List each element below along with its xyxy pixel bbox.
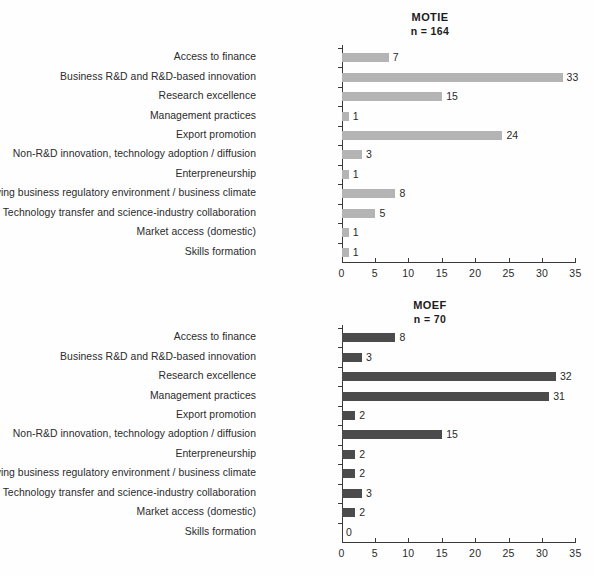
chart-row: Export promotion24	[0, 126, 594, 145]
y-axis-tick	[338, 406, 342, 407]
x-axis-tick-label: 30	[529, 267, 555, 279]
category-label: Research excellence	[159, 370, 256, 382]
y-axis-tick	[338, 87, 342, 88]
x-axis-tick	[542, 538, 543, 542]
category-label: Business R&D and R&D-based innovation	[60, 71, 256, 83]
bar-value-label: 8	[399, 188, 405, 198]
y-axis-tick	[338, 106, 342, 107]
category-label: Access to finance	[174, 331, 256, 343]
chart-row: Improving business regulatory environmen…	[0, 464, 594, 483]
chart-panel-motie: MOTIE n = 164 Access to finance7Business…	[0, 0, 594, 290]
y-axis-tick	[338, 126, 342, 127]
chart-row: Improving business regulatory environmen…	[0, 184, 594, 203]
y-axis-tick	[338, 386, 342, 387]
category-label: Improving business regulatory environmen…	[0, 467, 256, 479]
x-axis-tick	[408, 258, 409, 262]
x-axis-tick	[575, 258, 576, 262]
y-axis-tick	[338, 48, 342, 49]
bar-value-label: 32	[560, 371, 572, 381]
bar	[342, 353, 362, 362]
bar	[342, 92, 442, 101]
y-axis-tick	[338, 67, 342, 68]
category-label: Improving business regulatory environmen…	[0, 187, 256, 199]
x-axis-tick-label: 35	[562, 267, 588, 279]
bar-value-label: 8	[399, 332, 405, 342]
category-label: Technology transfer and science-industry…	[3, 487, 256, 499]
y-axis-tick	[338, 484, 342, 485]
chart-row: Access to finance8	[0, 328, 594, 347]
category-label: Enterpreneurship	[175, 168, 256, 180]
x-axis-tick-label: 10	[395, 547, 421, 559]
bar-value-label: 1	[353, 111, 359, 121]
x-axis-tick-label: 10	[395, 267, 421, 279]
x-axis-tick-label: 15	[429, 267, 455, 279]
bar-value-label: 3	[366, 352, 372, 362]
x-axis-tick	[375, 538, 376, 542]
category-label: Export promotion	[176, 129, 256, 141]
category-label: Management practices	[150, 110, 256, 122]
category-label: Technology transfer and science-industry…	[3, 207, 256, 219]
chart-row: Technology transfer and science-industry…	[0, 484, 594, 503]
category-label: Skills formation	[185, 246, 256, 258]
bar	[342, 392, 549, 401]
y-axis-tick	[338, 367, 342, 368]
chart-row: Skills formation1	[0, 243, 594, 262]
y-axis-tick	[338, 165, 342, 166]
chart-row: Business R&D and R&D-based innovation3	[0, 347, 594, 366]
category-label: Enterpreneurship	[175, 448, 256, 460]
y-axis-tick	[338, 347, 342, 348]
bar	[342, 150, 362, 159]
bar	[342, 469, 355, 478]
bar-value-label: 2	[359, 507, 365, 517]
x-axis-tick	[342, 538, 343, 542]
category-label: Management practices	[150, 390, 256, 402]
bar	[342, 508, 355, 517]
chart-row: Non-R&D innovation, technology adoption …	[0, 425, 594, 444]
bar-value-label: 2	[359, 449, 365, 459]
category-label: Export promotion	[176, 409, 256, 421]
y-axis-tick	[338, 464, 342, 465]
bar	[342, 170, 349, 179]
bar-value-label: 31	[553, 391, 565, 401]
bar-value-label: 1	[353, 247, 359, 257]
x-axis-tick	[375, 258, 376, 262]
bar	[342, 430, 442, 439]
bar	[342, 53, 389, 62]
x-axis-tick-label: 25	[496, 267, 522, 279]
bar-value-label: 15	[446, 429, 458, 439]
bar-value-label: 3	[366, 149, 372, 159]
bar-value-label: 1	[353, 227, 359, 237]
x-axis-tick-label: 15	[429, 547, 455, 559]
x-axis-tick	[408, 538, 409, 542]
y-axis-tick	[338, 445, 342, 446]
x-axis-tick	[342, 258, 343, 262]
bar-value-label: 0	[346, 527, 352, 537]
plot-area-motie: Access to finance7Business R&D and R&D-b…	[0, 0, 594, 290]
y-axis-tick	[338, 184, 342, 185]
x-axis-tick	[509, 258, 510, 262]
x-axis-tick-label: 35	[562, 547, 588, 559]
bar-value-label: 5	[379, 208, 385, 218]
x-axis-tick-label: 0	[329, 267, 355, 279]
chart-row: Enterpreneurship2	[0, 445, 594, 464]
y-axis-tick	[338, 523, 342, 524]
bar	[342, 112, 349, 121]
x-axis-tick-label: 5	[362, 547, 388, 559]
x-axis-tick-label: 25	[496, 547, 522, 559]
bar-value-label: 3	[366, 488, 372, 498]
bar-value-label: 15	[446, 91, 458, 101]
figure-root: MOTIE n = 164 Access to finance7Business…	[0, 0, 594, 576]
chart-row: Skills formation0	[0, 523, 594, 542]
bar	[342, 131, 502, 140]
bar-value-label: 33	[567, 72, 579, 82]
category-label: Business R&D and R&D-based innovation	[60, 351, 256, 363]
y-axis-tick	[338, 223, 342, 224]
bar-value-label: 1	[353, 169, 359, 179]
bar	[342, 411, 355, 420]
chart-row: Non-R&D innovation, technology adoption …	[0, 145, 594, 164]
bar	[342, 450, 355, 459]
x-axis-tick	[509, 538, 510, 542]
bar	[342, 333, 395, 342]
x-axis-tick-label: 5	[362, 267, 388, 279]
category-label: Non-R&D innovation, technology adoption …	[13, 148, 256, 160]
